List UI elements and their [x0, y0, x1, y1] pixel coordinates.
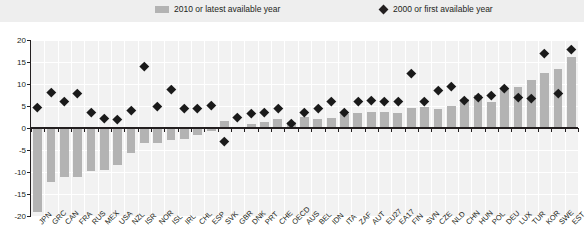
x-axis-tick — [551, 128, 552, 132]
diamond-icon — [273, 104, 282, 113]
x-axis-tick — [458, 128, 459, 132]
x-axis-tick — [405, 128, 406, 132]
diamond-swatch-icon — [379, 4, 389, 14]
gridline-horizontal — [31, 194, 578, 195]
x-axis-tick — [525, 128, 526, 132]
y-axis-tick-label: 20 — [4, 36, 26, 45]
bar-usa — [113, 128, 122, 165]
diamond-icon — [206, 100, 215, 109]
x-axis-tick — [298, 128, 299, 132]
diamond-icon — [246, 109, 255, 118]
y-axis-tick — [27, 194, 31, 195]
diamond-icon — [487, 90, 496, 99]
y-axis-tick — [27, 84, 31, 85]
diamond-icon — [113, 115, 122, 124]
x-axis-tick — [538, 128, 539, 132]
x-axis-tick — [111, 128, 112, 132]
diamond-icon — [233, 112, 242, 121]
diamond-icon — [567, 44, 576, 53]
plot-area — [30, 40, 578, 216]
gridline-horizontal — [31, 40, 578, 41]
bar-fin — [407, 108, 416, 128]
bar-swatch-icon — [155, 6, 169, 13]
diamond-icon — [433, 86, 442, 95]
x-axis-tick — [271, 128, 272, 132]
x-axis-tick — [258, 128, 259, 132]
gridline-horizontal — [31, 62, 578, 63]
y-axis-tick-label: -5 — [4, 146, 26, 155]
x-axis-tick — [445, 128, 446, 132]
x-axis-tick — [138, 128, 139, 132]
x-axis-tick — [218, 128, 219, 132]
diamond-icon — [220, 137, 229, 146]
bar-nzl — [127, 128, 136, 153]
bar-nld — [447, 106, 456, 128]
x-axis-tick — [44, 128, 45, 132]
x-axis-tick — [378, 128, 379, 132]
x-axis-tick — [164, 128, 165, 132]
gridline-horizontal — [31, 172, 578, 173]
x-axis-tick — [151, 128, 152, 132]
y-axis-tick-label: 5 — [4, 102, 26, 111]
diamond-icon — [313, 104, 322, 113]
x-axis-tick — [178, 128, 179, 132]
diamond-icon — [166, 85, 175, 94]
x-axis-tick — [565, 128, 566, 132]
bar-isl — [167, 128, 176, 140]
bar-mex — [100, 128, 109, 170]
diamond-icon — [327, 97, 336, 106]
diamond-icon — [126, 106, 135, 115]
bar-tur — [527, 80, 536, 128]
legend-label-diamonds: 2000 or first available year — [393, 4, 493, 14]
x-axis-tick — [284, 128, 285, 132]
diamond-icon — [540, 49, 549, 58]
x-axis-tick — [204, 128, 205, 132]
y-axis-tick — [27, 216, 31, 217]
zero-axis-line — [31, 127, 578, 129]
bar-nor — [153, 128, 162, 143]
gridline-horizontal — [31, 84, 578, 85]
x-axis-tick — [325, 128, 326, 132]
legend-item-diamonds: 2000 or first available year — [380, 4, 493, 14]
diamond-icon — [140, 62, 149, 71]
bar-aut — [367, 112, 376, 128]
x-axis-tick — [244, 128, 245, 132]
bar-jpn — [33, 128, 42, 212]
x-axis-tick — [231, 128, 232, 132]
bar-isr — [140, 128, 149, 143]
diamond-icon — [180, 104, 189, 113]
x-axis-tick — [31, 128, 32, 132]
y-axis-tick-label: -20 — [4, 212, 26, 221]
bar-kor — [540, 73, 549, 128]
x-axis-tick — [498, 128, 499, 132]
y-axis-tick — [27, 62, 31, 63]
y-axis-tick — [27, 106, 31, 107]
bar-grc — [47, 128, 56, 182]
diamond-icon — [420, 97, 429, 106]
y-axis-tick-label: 0 — [4, 124, 26, 133]
bar-pol — [487, 102, 496, 128]
x-axis-tick — [98, 128, 99, 132]
diamond-icon — [86, 108, 95, 117]
y-axis-tick — [27, 150, 31, 151]
x-axis-tick — [58, 128, 59, 132]
bar-ea17 — [393, 113, 402, 128]
y-axis-tick-label: -15 — [4, 190, 26, 199]
x-axis-tick — [511, 128, 512, 132]
bar-chl — [193, 128, 202, 135]
x-axis-tick — [191, 128, 192, 132]
diamond-icon — [367, 96, 376, 105]
diamond-icon — [73, 88, 82, 97]
x-axis-tick — [71, 128, 72, 132]
diamond-icon — [353, 97, 362, 106]
x-axis-tick — [471, 128, 472, 132]
diamond-icon — [153, 101, 162, 110]
bar-irl — [180, 128, 189, 139]
diamond-icon — [193, 104, 202, 113]
diamond-icon — [447, 82, 456, 91]
y-axis-tick-label: -10 — [4, 168, 26, 177]
bar-svn — [420, 107, 429, 128]
x-axis-tick — [391, 128, 392, 132]
diamond-icon — [260, 108, 269, 117]
